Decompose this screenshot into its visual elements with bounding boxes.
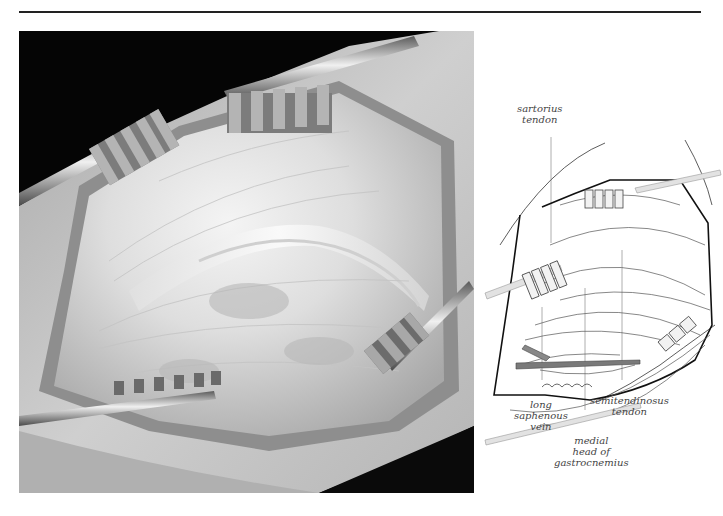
label-long-saphenous-vein: long saphenous vein <box>514 399 568 432</box>
label-line: head of <box>554 446 629 457</box>
label-semitendinosus-tendon: semitendinosus tendon <box>590 395 669 417</box>
label-line: semitendinosus <box>590 395 669 406</box>
header-rule <box>19 11 701 13</box>
label-line: long <box>514 399 568 410</box>
surgical-photo <box>19 31 474 493</box>
label-line: tendon <box>590 406 669 417</box>
label-line: sartorius <box>517 103 562 114</box>
label-line: vein <box>514 421 568 432</box>
label-line: gastrocnemius <box>554 457 629 468</box>
label-sartorius-tendon: sartorius tendon <box>517 103 562 125</box>
label-line: tendon <box>517 114 562 125</box>
label-line: saphenous <box>514 410 568 421</box>
label-line: medial <box>554 435 629 446</box>
label-medial-head-gastrocnemius: medial head of gastrocnemius <box>554 435 629 468</box>
